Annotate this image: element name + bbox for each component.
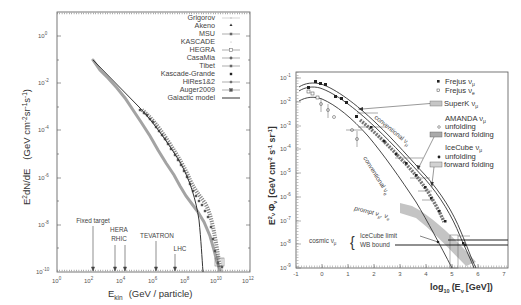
svg-text:1: 1 bbox=[346, 271, 350, 277]
right-chart: 10-1 10-2 10-3 10-4 10-5 10-6 10-7 10-8 … bbox=[267, 72, 508, 294]
conventional-numu-label: conventional νμ bbox=[372, 113, 412, 148]
svg-text:0: 0 bbox=[320, 271, 324, 277]
svg-text:HERA: HERA bbox=[110, 226, 128, 233]
svg-text:10-1: 10-1 bbox=[280, 73, 291, 81]
collider-annotations: Fixed target HERA RHIC TEVATRON LHC bbox=[76, 217, 187, 271]
svg-text:10-6: 10-6 bbox=[280, 192, 291, 200]
figure: 100 10-2 10-4 10-6 10-8 10-10 100 102 10… bbox=[0, 0, 521, 305]
svg-text:1010: 1010 bbox=[210, 276, 222, 284]
svg-text:LHC: LHC bbox=[174, 245, 187, 252]
right-y-ticks bbox=[296, 78, 301, 268]
svg-text:5: 5 bbox=[450, 271, 454, 277]
svg-text:RHIC: RHIC bbox=[111, 235, 127, 242]
cosmic-label: cosmic νμ bbox=[309, 237, 337, 246]
prompt-label: prompt νμ, νe bbox=[352, 204, 391, 222]
svg-text:10-10: 10-10 bbox=[36, 267, 50, 275]
svg-text:10-3: 10-3 bbox=[280, 121, 291, 129]
right-x-axis-label: log10(Eν[GeV]) bbox=[430, 282, 493, 294]
svg-text:106: 106 bbox=[148, 276, 158, 284]
right-x-tick-labels: -1 0 1 2 3 4 5 6 7 bbox=[293, 271, 506, 277]
svg-text:-1: -1 bbox=[293, 271, 299, 277]
left-chart: 100 10-2 10-4 10-6 10-8 10-10 100 102 10… bbox=[21, 12, 255, 301]
svg-text:10-5: 10-5 bbox=[280, 168, 291, 176]
svg-text:6: 6 bbox=[476, 271, 480, 277]
svg-text:108: 108 bbox=[180, 276, 190, 284]
svg-text:forward folding: forward folding bbox=[444, 130, 494, 139]
right-y-axis-label: E2νΦν[GeV cm-2 s-1 sr-1] bbox=[267, 126, 278, 225]
svg-text:3: 3 bbox=[398, 271, 402, 277]
svg-text:forward folding: forward folding bbox=[444, 160, 494, 169]
left-x-axis-label: Ekin(GeV / particle) bbox=[108, 288, 193, 301]
svg-text:10-8: 10-8 bbox=[38, 220, 49, 228]
svg-text:104: 104 bbox=[116, 276, 126, 284]
brace: { bbox=[350, 234, 355, 250]
left-y-axis-label: E2dN/dE(GeV cm-2sr-1s-1) bbox=[21, 89, 33, 205]
svg-text:100: 100 bbox=[52, 276, 62, 284]
svg-text:10-2: 10-2 bbox=[38, 78, 49, 86]
svg-text:10-4: 10-4 bbox=[38, 125, 49, 133]
icecube-limit-label: IceCube limit bbox=[360, 232, 397, 239]
left-y-tick-labels: 100 10-2 10-4 10-6 10-8 10-10 bbox=[36, 31, 50, 275]
svg-text:10-7: 10-7 bbox=[280, 216, 291, 224]
svg-text:102: 102 bbox=[84, 276, 94, 284]
svg-text:10-8: 10-8 bbox=[280, 239, 291, 247]
svg-text:2: 2 bbox=[372, 271, 376, 277]
svg-text:Galactic model: Galactic model bbox=[167, 93, 215, 102]
svg-text:Fixed target: Fixed target bbox=[76, 217, 110, 225]
right-y-tick-labels: 10-1 10-2 10-3 10-4 10-5 10-6 10-7 10-8 … bbox=[280, 73, 291, 271]
svg-text:10-2: 10-2 bbox=[280, 97, 291, 105]
left-legend: Grigorov Akeno MSU KASCADE HEGRA CasaMia… bbox=[161, 13, 240, 102]
svg-text:100: 100 bbox=[38, 31, 48, 39]
conventional-nue-label: conventional νe bbox=[360, 155, 391, 197]
svg-text:Frejus νe: Frejus νe bbox=[445, 86, 475, 96]
svg-text:10-6: 10-6 bbox=[38, 173, 49, 181]
svg-text:10-4: 10-4 bbox=[280, 144, 291, 152]
svg-text:1012: 1012 bbox=[242, 276, 254, 284]
svg-text:TEVATRON: TEVATRON bbox=[140, 232, 174, 239]
svg-text:7: 7 bbox=[502, 271, 506, 277]
left-x-tick-labels: 100 102 104 106 108 1010 1012 bbox=[52, 276, 254, 284]
svg-text:SuperK νμ: SuperK νμ bbox=[444, 99, 478, 109]
wb-bound-label: WB bound bbox=[360, 241, 390, 248]
svg-text:4: 4 bbox=[424, 271, 428, 277]
svg-text:10-9: 10-9 bbox=[280, 263, 291, 271]
